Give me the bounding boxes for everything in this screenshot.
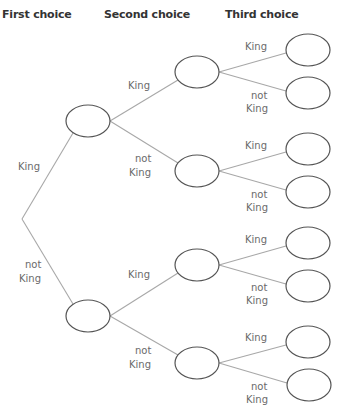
branch-l2c-king [219, 246, 286, 265]
label-l3a-not-king: King [246, 103, 268, 114]
node-l1-king[interactable] [66, 105, 110, 137]
branch-l2b-not-king [219, 171, 286, 190]
label-l2a-king: King [128, 80, 150, 91]
level1-nodes [66, 105, 110, 332]
label-l1-not: not [25, 259, 41, 270]
label-l3b-not-king: King [246, 202, 268, 213]
label-l3b-king: King [245, 140, 267, 151]
branch-l2b-king [219, 152, 286, 171]
level2-nodes [175, 56, 219, 379]
label-l3c-king: King [245, 234, 267, 245]
node-l3-kkn[interactable] [286, 77, 330, 109]
label-l1-king: King [18, 161, 40, 172]
node-l2-not-king-king[interactable] [175, 249, 219, 281]
label-l3d-not: not [251, 381, 267, 392]
node-l2-king-not-king[interactable] [175, 155, 219, 187]
node-l3-nkn[interactable] [286, 270, 330, 302]
label-l3b-not: not [251, 189, 267, 200]
branch-l2a-king [219, 53, 286, 72]
node-l3-nnk[interactable] [286, 326, 330, 358]
node-l3-kkk[interactable] [286, 34, 330, 66]
label-l3d-king: King [245, 332, 267, 343]
label-l1-not-king: King [19, 273, 41, 284]
node-l3-nkk[interactable] [286, 227, 330, 259]
branch-root-king [22, 133, 73, 219]
node-l1-not-king[interactable] [66, 300, 110, 332]
label-l3d-not-king: King [246, 394, 268, 405]
level3-nodes [286, 34, 331, 401]
label-l2b-not: not [135, 345, 151, 356]
node-l3-nnn[interactable] [287, 369, 331, 401]
level1-labels: King not King [18, 161, 41, 284]
label-l3a-king: King [245, 41, 267, 52]
node-l3-knk[interactable] [286, 133, 330, 165]
node-l2-king-king[interactable] [175, 56, 219, 88]
label-l2b-not-king: King [129, 359, 151, 370]
label-l2b-king: King [128, 269, 150, 280]
label-l3c-not: not [251, 282, 267, 293]
level2-labels: King not King King not King [128, 80, 151, 370]
branch-l2a-not-king [219, 72, 286, 91]
node-l2-not-king-not-king[interactable] [175, 347, 219, 379]
probability-tree-diagram: King not King King not King King not Kin… [0, 0, 342, 417]
branch-l2d-not-king [219, 363, 287, 383]
node-l3-knn[interactable] [286, 176, 330, 208]
label-l3c-not-king: King [246, 295, 268, 306]
label-l2a-not: not [135, 153, 151, 164]
branch-l2d-king [219, 345, 286, 363]
label-l2a-not-king: King [129, 167, 151, 178]
label-l3a-not: not [251, 90, 267, 101]
